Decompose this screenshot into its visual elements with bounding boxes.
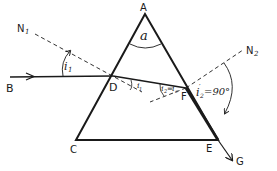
svg-text:′: ′ <box>199 83 201 91</box>
label-g: G <box>236 156 244 167</box>
svg-text:N: N <box>17 23 24 34</box>
prism-diagram: A B C D E F G N 1 N 2 a i 1 i ′ 1 i 2 = … <box>0 0 277 171</box>
svg-text:1: 1 <box>68 66 72 74</box>
label-c: C <box>70 144 77 155</box>
normal-n2 <box>186 50 243 88</box>
svg-text:N: N <box>246 45 253 56</box>
svg-text:c: c <box>175 88 178 94</box>
label-incidence-angle: i 1 <box>64 60 72 74</box>
label-n1: N 1 <box>17 23 29 36</box>
label-second-incidence-angle: i 2 = i c <box>161 84 178 94</box>
apex-angle-arc <box>130 44 161 48</box>
emergent-ray <box>218 140 232 160</box>
svg-text:=90°: =90° <box>204 86 230 97</box>
svg-text:i: i <box>64 60 68 73</box>
svg-text:1: 1 <box>25 28 29 36</box>
label-a: A <box>140 2 147 13</box>
incident-ray <box>10 76 113 77</box>
svg-text:2: 2 <box>253 50 259 58</box>
label-e: E <box>206 143 212 154</box>
label-f: F <box>181 91 187 102</box>
label-emergence-angle: i ′ 2 =90° <box>196 83 230 99</box>
label-b: B <box>6 82 14 95</box>
svg-text:′: ′ <box>139 78 141 85</box>
refraction-angle-arc <box>130 80 132 90</box>
label-apex-angle: a <box>140 28 148 43</box>
label-d: D <box>109 81 117 94</box>
label-n2: N 2 <box>246 45 259 58</box>
normal-n1 <box>35 34 142 92</box>
svg-text:1: 1 <box>139 86 142 92</box>
